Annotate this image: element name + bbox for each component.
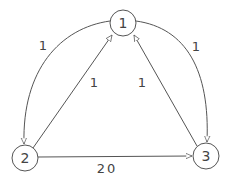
- node-1-label: 1: [119, 15, 128, 31]
- edge-label-1-to-3: 1: [192, 39, 200, 54]
- node-2: 2: [12, 145, 38, 171]
- edge-label-3-to-1: 1: [138, 75, 146, 90]
- node-3-label: 3: [202, 148, 211, 164]
- node-2-label: 2: [21, 150, 30, 166]
- node-1: 1: [110, 10, 136, 36]
- node-3: 3: [193, 143, 219, 169]
- edge-2-to-3: [38, 156, 192, 157]
- edge-label-2-to-3: 20: [97, 161, 118, 176]
- edge-label-2-to-1: 1: [90, 75, 98, 90]
- graph-canvas: 1 1 1 1 20 1 2 3: [0, 0, 234, 185]
- edge-label-1-to-2: 1: [39, 38, 47, 53]
